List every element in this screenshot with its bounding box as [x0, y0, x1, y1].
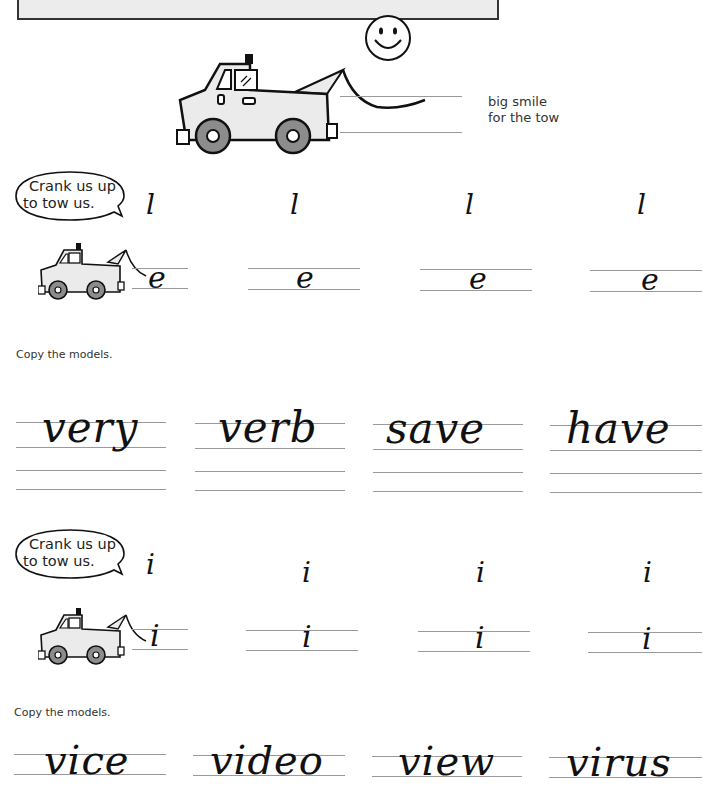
small-tow-truck-illustration — [38, 605, 168, 665]
guide-line-bottom — [340, 132, 462, 133]
traced-letter-2: e — [296, 260, 314, 295]
speech-bubble: Crank us up to tow us. — [14, 528, 126, 580]
model-letter-1: i — [146, 548, 155, 581]
model-word-3: save — [386, 404, 485, 453]
practice-line[interactable] — [373, 491, 523, 492]
traced-letter-3: e — [469, 261, 487, 296]
traced-letter-2: i — [302, 619, 312, 654]
practice-line[interactable] — [16, 489, 166, 490]
bubble-line-1: Crank us up — [29, 178, 116, 195]
guide-line — [418, 631, 530, 632]
traced-letter-3: i — [475, 620, 485, 655]
model-word-4: virus — [566, 739, 672, 785]
traced-letter-1: i — [150, 618, 160, 653]
caption-line-1: big smile — [488, 94, 559, 110]
guide-line — [132, 629, 188, 630]
traced-letter-4: i — [642, 621, 652, 656]
bubble-line-1: Crank us up — [29, 536, 116, 553]
model-letter-2: i — [302, 556, 311, 589]
guide-line — [132, 649, 188, 650]
bubble-line-2: to tow us. — [23, 553, 95, 570]
practice-line[interactable] — [195, 490, 345, 491]
tow-truck-illustration — [175, 52, 475, 157]
practice-line[interactable] — [550, 473, 702, 474]
small-tow-truck-icon — [38, 605, 168, 665]
bubble-line-2: to tow us. — [23, 195, 95, 212]
model-letter-3: i — [476, 556, 485, 589]
model-letter-3: l — [465, 188, 474, 221]
instruction-text: Copy the models. — [16, 348, 112, 361]
model-letter-4: l — [637, 188, 646, 221]
model-word-4: have — [566, 404, 671, 453]
practice-line[interactable] — [16, 470, 166, 471]
guide-line-top — [340, 96, 462, 97]
model-letter-4: i — [643, 556, 652, 589]
caption-line-2: for the tow — [488, 110, 559, 126]
practice-line[interactable] — [550, 492, 702, 493]
model-word-1: vice — [44, 737, 129, 783]
model-letter-1: l — [146, 188, 155, 221]
model-word-2: verb — [218, 403, 318, 452]
model-word-2: video — [210, 737, 324, 783]
hero-caption: big smile for the tow — [488, 94, 559, 126]
practice-line[interactable] — [373, 472, 523, 473]
traced-letter-4: e — [641, 262, 659, 297]
traced-letter-1: e — [148, 260, 166, 295]
speech-bubble: Crank us up to tow us. — [14, 170, 126, 222]
model-word-1: very — [42, 403, 138, 452]
model-letter-2: l — [290, 188, 299, 221]
guide-line — [418, 651, 530, 652]
smiley-face-icon — [362, 12, 414, 64]
practice-line[interactable] — [195, 471, 345, 472]
title-box — [17, 0, 499, 20]
model-word-3: view — [398, 738, 495, 784]
tow-truck-icon — [175, 52, 475, 157]
instruction-text: Copy the models. — [14, 706, 110, 719]
